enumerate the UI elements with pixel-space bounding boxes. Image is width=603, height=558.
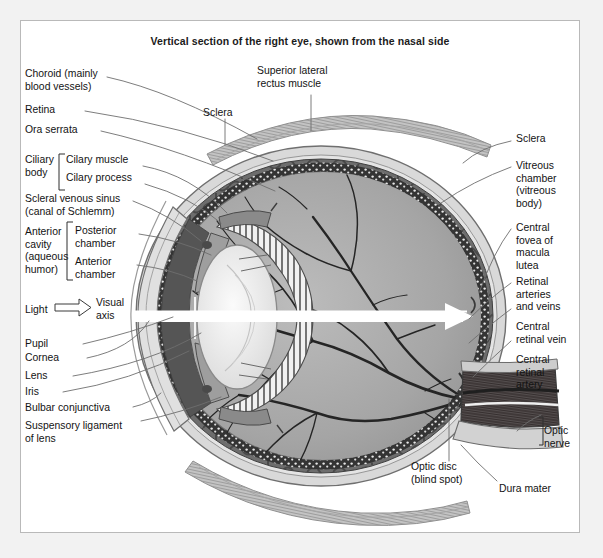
label-anterior-cavity: Anterior cavity (aqueous humor) — [25, 226, 68, 276]
label-dura-mater: Dura mater — [499, 483, 551, 496]
label-ciliary-process: Cilary process — [66, 172, 132, 185]
label-optic-disc: Optic disc (blind spot) — [411, 461, 462, 486]
label-lens: Lens — [25, 370, 48, 383]
label-ciliary-muscle: Cilary muscle — [66, 154, 128, 167]
label-bulbar-conjunctiva: Bulbar conjunctiva — [25, 402, 110, 415]
label-suspensory-ligament: Suspensory ligament of lens — [25, 420, 122, 445]
label-central-retinal-vein: Central retinal vein — [516, 321, 566, 346]
label-visual-axis: Visual axis — [96, 297, 124, 322]
label-scleral-venous-sinus: Scleral venous sinus (canal of Schlemm) — [25, 193, 120, 218]
label-ora-serrata: Ora serrata — [25, 124, 78, 137]
label-cornea: Cornea — [25, 352, 59, 365]
label-superior-rectus: Superior lateral rectus muscle — [257, 65, 327, 90]
figure-panel: Vertical section of the right eye, shown… — [20, 20, 580, 533]
label-choroid: Choroid (mainly blood vessels) — [25, 68, 98, 93]
label-sclera-right: Sclera — [516, 133, 545, 146]
label-sclera-top: Sclera — [203, 107, 232, 120]
label-anterior-chamber: Anterior chamber — [75, 256, 115, 281]
label-posterior-chamber: Posterior chamber — [75, 225, 117, 250]
label-ciliary-body: Ciliary body — [25, 154, 54, 179]
label-pupil: Pupil — [25, 338, 48, 351]
label-optic-nerve: Optic nerve — [544, 425, 570, 450]
label-retinal-arteries-veins: Retinal arteries and veins — [516, 276, 560, 314]
scleral-venous-sinus — [202, 241, 212, 249]
label-central-fovea: Central fovea of macula lutea — [516, 222, 553, 272]
label-vitreous-chamber: Vitreous chamber (vitreous body) — [516, 160, 556, 210]
label-light: Light — [25, 304, 48, 317]
label-retina: Retina — [25, 104, 55, 117]
label-central-retinal-artery: Central retinal artery — [516, 354, 550, 392]
label-iris: Iris — [25, 386, 39, 399]
